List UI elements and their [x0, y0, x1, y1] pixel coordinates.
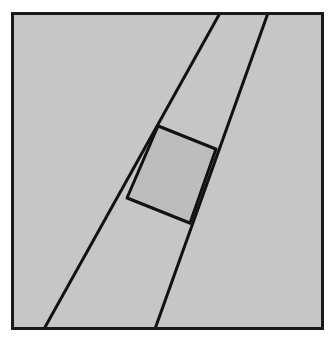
- geometry-figure-svg: [0, 0, 334, 340]
- figure-root: [0, 0, 334, 340]
